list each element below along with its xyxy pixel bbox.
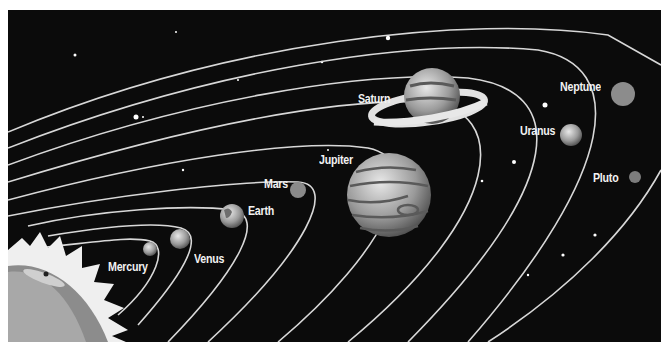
- label-jupiter: Jupiter: [319, 152, 353, 167]
- mercury-icon: [143, 242, 157, 256]
- label-earth: Earth: [248, 203, 274, 218]
- sun-icon: [8, 232, 128, 342]
- mars-icon: [290, 182, 306, 198]
- uranus-icon: [560, 124, 582, 146]
- solar-system-diagram: Mercury Venus Earth Mars Jupiter Saturn …: [8, 10, 661, 342]
- label-pluto: Pluto: [593, 170, 618, 185]
- label-venus: Venus: [194, 251, 224, 266]
- label-uranus: Uranus: [520, 123, 555, 138]
- earth-icon: [220, 204, 244, 228]
- neptune-icon: [611, 82, 635, 106]
- orbits-and-bodies: [8, 10, 661, 342]
- label-mercury: Mercury: [108, 259, 148, 274]
- jupiter-icon: [347, 153, 431, 237]
- pluto-icon: [629, 171, 641, 183]
- label-neptune: Neptune: [560, 79, 601, 94]
- label-mars: Mars: [264, 176, 288, 191]
- venus-icon: [170, 229, 190, 249]
- label-saturn: Saturn: [358, 91, 390, 106]
